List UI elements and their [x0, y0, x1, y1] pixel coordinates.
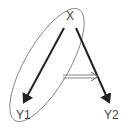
node-y2-label: Y2: [104, 109, 119, 121]
grouping-ellipse: [0, 0, 98, 131]
arrow-x-to-y2: [76, 28, 109, 102]
node-y1-label: Y1: [16, 109, 31, 121]
arrow-x-to-y1: [24, 28, 64, 102]
node-x-label: X: [66, 10, 74, 22]
double-arrow: [63, 72, 98, 81]
